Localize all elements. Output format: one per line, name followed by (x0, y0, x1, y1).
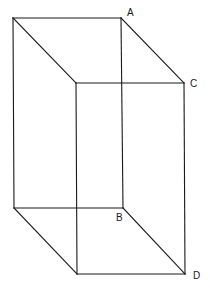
edge-top-left-depth (13, 18, 76, 83)
depth-edges (13, 18, 185, 274)
edge-front-right (184, 83, 185, 274)
prism-diagram: A C B D (0, 0, 210, 288)
front-face (76, 83, 185, 274)
back-face (13, 18, 123, 208)
edge-bottom-left-depth (14, 208, 77, 274)
edge-back-right (121, 18, 123, 208)
label-B: B (116, 212, 123, 223)
vertex-labels: A C B D (116, 7, 200, 281)
label-C: C (190, 78, 197, 89)
label-D: D (193, 270, 200, 281)
edge-B-D (123, 208, 185, 274)
edge-A-C (121, 18, 184, 83)
edge-front-left (76, 83, 77, 274)
label-A: A (127, 7, 134, 18)
edge-back-left (13, 18, 14, 208)
